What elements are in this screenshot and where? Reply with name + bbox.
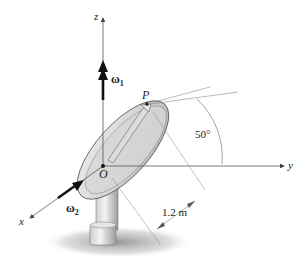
- satellite-dish-diagram: z y x O P ω1 ω2 50° 1.2 m: [0, 0, 307, 263]
- angle-label: 50°: [195, 129, 210, 140]
- dish: [62, 87, 184, 214]
- y-axis-label: y: [288, 160, 293, 171]
- length-label: 1.2 m: [162, 207, 187, 218]
- point-p-label: P: [142, 89, 149, 101]
- z-axis-label: z: [94, 11, 98, 22]
- origin-label: O: [99, 168, 108, 180]
- angle-reference-line: [150, 92, 238, 104]
- x-axis-label: x: [19, 216, 24, 227]
- ground-shadow: [43, 226, 193, 258]
- diagram-graphics: [0, 0, 307, 263]
- omega1-label: ω1: [111, 73, 124, 88]
- omega2-label: ω2: [66, 202, 79, 217]
